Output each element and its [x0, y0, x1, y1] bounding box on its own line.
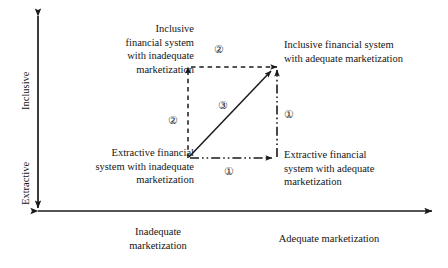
path-one-vertical-marker: ①: [284, 110, 294, 121]
x-axis-right-label: Adequate marketization: [258, 232, 400, 246]
inclusive-inadequate-node: Inclusive financial system with inadequa…: [76, 22, 194, 76]
path-one-horizontal-marker: ①: [224, 167, 234, 178]
path-three-diagonal-arrow: [189, 71, 271, 157]
x-axis-left-label: Inadequate marketization: [113, 225, 203, 252]
inclusive-adequate-node: Inclusive financial system with adequate…: [284, 38, 440, 65]
path-two-horizontal-marker: ②: [214, 45, 224, 56]
extractive-inadequate-node: Extractive financial system with inadequ…: [66, 146, 194, 187]
y-axis-bottom-label: Extractive: [20, 162, 31, 205]
path-three-diagonal-marker: ③: [218, 101, 228, 112]
y-axis-top-label: Inclusive: [20, 72, 31, 111]
path-two-vertical-marker: ②: [168, 116, 178, 127]
extractive-adequate-node: Extractive financial system with adequat…: [284, 148, 416, 189]
quadrant-transition-diagram: Inclusive Extractive Inadequate marketiz…: [0, 0, 448, 268]
